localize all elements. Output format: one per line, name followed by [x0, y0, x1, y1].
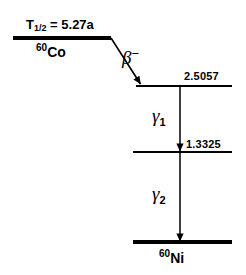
level-line-1-3325 — [133, 151, 232, 153]
halflife-symbol: T — [26, 17, 34, 32]
energy-value: 2.5057 — [184, 70, 219, 82]
daughter-element-symbol: Ni — [170, 250, 184, 266]
gamma-symbol: γ — [152, 105, 160, 126]
parent-nuclide-label: 60Co — [36, 43, 66, 59]
gamma1-index: 1 — [160, 116, 166, 128]
energy-label-2-5057: 2.5057 — [184, 71, 219, 82]
gamma2-index: 2 — [160, 194, 166, 206]
gamma2-label: γ2 — [152, 184, 166, 206]
parent-mass-number: 60 — [36, 42, 47, 53]
level-line-2-5057 — [136, 85, 232, 87]
daughter-nuclide-label: 60Ni — [159, 249, 184, 265]
daughter-mass-number: 60 — [159, 248, 170, 259]
energy-label-1-3325: 1.3325 — [186, 139, 221, 150]
halflife-value: = 5.27a — [46, 17, 93, 32]
beta-minus-label: β− — [122, 47, 139, 67]
halflife-label: T1/2 = 5.27a — [26, 18, 94, 33]
halflife-subscript: 1/2 — [34, 23, 47, 33]
decay-scheme-figure: T1/2 = 5.27a 60Co 2.5057 1.3325 60Ni β− … — [0, 0, 246, 275]
energy-value: 1.3325 — [186, 138, 221, 150]
gamma1-label: γ1 — [152, 106, 166, 128]
ground-state-level-line — [133, 240, 232, 244]
parent-element-symbol: Co — [47, 44, 66, 60]
parent-level-line — [13, 36, 111, 40]
gamma-symbol: γ — [152, 183, 160, 204]
beta-charge-superscript: − — [131, 46, 139, 61]
